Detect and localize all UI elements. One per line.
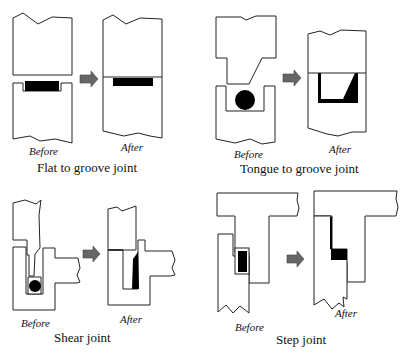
after-filler-block [331, 249, 347, 260]
joint-diagram [0, 0, 404, 354]
arrow-right-icon [83, 246, 100, 262]
before-filler-ball [29, 280, 41, 292]
caption-step: Step joint [276, 332, 326, 348]
panel-flat-to-groove [13, 13, 162, 143]
after-upper-part [108, 206, 136, 250]
after-label: After [121, 141, 143, 153]
arrow-right-icon [283, 70, 301, 86]
before-label: Before [29, 145, 58, 157]
before-label: Before [21, 317, 50, 329]
before-lower-part [13, 247, 80, 310]
caption-flat-to-groove: Flat to groove joint [37, 160, 137, 176]
panel-step [217, 191, 398, 313]
before-filler-strip [25, 81, 59, 91]
arrow-right-icon [80, 71, 98, 87]
panel-shear [13, 200, 175, 310]
after-label: After [329, 143, 351, 155]
arrow-right-icon [287, 251, 304, 267]
caption-shear: Shear joint [54, 330, 111, 346]
panel-tongue-to-groove [216, 16, 366, 144]
caption-tongue-to-groove: Tongue to groove joint [240, 161, 359, 177]
before-filler-block [238, 251, 247, 272]
before-filler-ball [235, 90, 255, 110]
before-tongue-part [216, 16, 276, 84]
before-label: Before [234, 148, 263, 160]
before-upper-part [13, 13, 72, 75]
after-filler-strip [113, 78, 153, 86]
before-lower-part [13, 83, 72, 143]
after-filler-shape [132, 252, 139, 289]
after-label: After [120, 313, 142, 325]
after-label: After [335, 307, 357, 319]
before-label: Before [235, 321, 264, 333]
